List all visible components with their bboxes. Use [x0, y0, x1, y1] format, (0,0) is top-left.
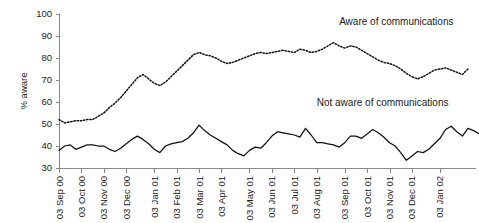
x-tick-label: 03 Jan 01 [149, 176, 160, 218]
y-tick-label: 70 [41, 74, 52, 85]
x-tick-label: 03 Sep 01 [339, 176, 350, 219]
y-tick-label: 30 [41, 162, 52, 173]
x-axis-ticks: 03 Sep 0003 Oct 0003 Nov 0003 Dec 0003 J… [54, 169, 446, 221]
series-annotation-1: Not aware of communications [317, 97, 449, 108]
x-tick-label: 03 Apr 01 [216, 176, 227, 217]
x-tick-label: 03 Jun 01 [266, 176, 277, 218]
x-tick-label: 03 Nov 01 [384, 176, 395, 219]
line-chart: 30405060708090100 03 Sep 0003 Oct 0003 N… [0, 0, 479, 223]
y-tick-label: 80 [41, 52, 52, 63]
x-tick-label: 03 Sep 00 [54, 176, 65, 219]
x-axis-group: 03 Sep 0003 Oct 0003 Nov 0003 Dec 0003 J… [54, 169, 477, 221]
series-line-not-aware [59, 125, 479, 160]
y-tick-label: 40 [41, 140, 52, 151]
x-tick-label: 03 Jul 01 [289, 176, 300, 215]
x-tick-label: 03 Oct 01 [362, 176, 373, 217]
y-axis-ticks: 30405060708090100 [36, 8, 59, 173]
x-tick-label: 03 Jan 02 [434, 176, 445, 218]
y-axis-title: % aware [18, 73, 29, 110]
chart-container: 30405060708090100 03 Sep 0003 Oct 0003 N… [0, 0, 479, 223]
x-tick-label: 03 Feb 01 [171, 176, 182, 219]
x-tick-label: 03 Aug 01 [311, 176, 322, 219]
x-tick-label: 03 Oct 00 [76, 176, 87, 217]
series-line-aware [59, 43, 468, 123]
x-tick-label: 03 Mar 01 [194, 176, 205, 219]
y-axis-group: 30405060708090100 [36, 8, 59, 173]
y-tick-label: 60 [41, 96, 52, 107]
y-tick-label: 90 [41, 30, 52, 41]
y-tick-label: 50 [41, 118, 52, 129]
x-tick-label: 03 Dec 01 [406, 176, 417, 219]
series-annotation-0: Aware of communications [339, 16, 453, 27]
x-tick-label: 03 Nov 00 [98, 176, 109, 219]
x-tick-label: 03 May 01 [244, 176, 255, 220]
x-tick-label: 03 Dec 00 [121, 176, 132, 219]
y-tick-label: 100 [36, 8, 52, 19]
